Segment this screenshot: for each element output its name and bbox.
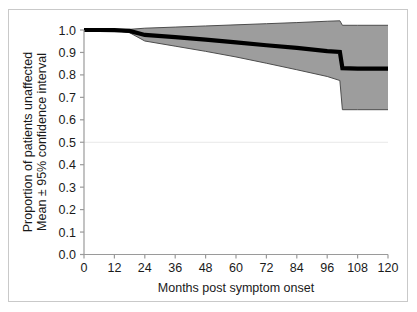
y-tick-label-0.2: 0.2	[59, 203, 76, 217]
y-axis-title: Proportion of patients unaffected Mean ±…	[21, 52, 49, 232]
x-axis-title: Months post symptom onset	[158, 281, 315, 295]
y-tick-label-0.6: 0.6	[59, 113, 76, 127]
x-tick-marks	[84, 255, 388, 259]
y-axis-title-line-2: Mean ± 95% confidence interval	[35, 53, 49, 231]
x-tick-label-12: 12	[107, 261, 121, 275]
y-tick-labels: 0.00.10.20.30.40.50.60.70.80.91.0	[59, 24, 76, 263]
x-tick-label-120: 120	[378, 261, 399, 275]
y-tick-label-0.5: 0.5	[59, 136, 76, 150]
x-tick-label-48: 48	[199, 261, 213, 275]
y-tick-label-1.0: 1.0	[59, 24, 76, 38]
y-tick-label-0.0: 0.0	[59, 248, 76, 262]
x-tick-label-84: 84	[290, 261, 304, 275]
y-tick-label-0.4: 0.4	[59, 158, 76, 172]
x-tick-label-96: 96	[320, 261, 334, 275]
x-tick-label-36: 36	[168, 261, 182, 275]
x-tick-label-108: 108	[347, 261, 368, 275]
y-tick-label-0.1: 0.1	[59, 226, 76, 240]
x-tick-labels: 01224364860728496108120	[81, 261, 399, 275]
chart-canvas: 0.00.10.20.30.40.50.60.70.80.91.0 012243…	[0, 0, 417, 312]
x-tick-label-60: 60	[229, 261, 243, 275]
y-axis-title-line-1: Proportion of patients unaffected	[21, 52, 35, 232]
figure-container: 0.00.10.20.30.40.50.60.70.80.91.0 012243…	[0, 0, 417, 312]
x-tick-label-0: 0	[81, 261, 88, 275]
x-tick-label-72: 72	[259, 261, 273, 275]
y-tick-label-0.9: 0.9	[59, 46, 76, 60]
y-tick-label-0.8: 0.8	[59, 68, 76, 82]
y-tick-label-0.3: 0.3	[59, 181, 76, 195]
x-tick-label-24: 24	[138, 261, 152, 275]
y-tick-label-0.7: 0.7	[59, 91, 76, 105]
